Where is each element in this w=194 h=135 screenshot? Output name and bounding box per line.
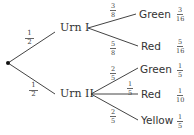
outcome-urn1-green: Green <box>139 8 171 20</box>
denominator: 5 <box>111 75 115 82</box>
outcome-urn2-red: Red <box>141 88 161 100</box>
branch-prob-urn1: 12 <box>25 30 34 46</box>
numerator: 2 <box>111 109 115 116</box>
denominator: 16 <box>176 48 184 55</box>
denominator: 5 <box>178 72 182 79</box>
numerator: 5 <box>111 41 115 48</box>
joint-prob-urn2-green: 15 <box>177 63 183 78</box>
numerator: 2 <box>111 66 115 73</box>
denominator: 2 <box>27 39 31 46</box>
branch-prob-urn1-green: 38 <box>110 3 116 18</box>
denominator: 5 <box>111 118 115 125</box>
branch-prob-urn2-green: 25 <box>110 66 116 81</box>
denominator: 16 <box>176 16 184 23</box>
branch-prob-urn1-red: 58 <box>110 41 116 56</box>
numerator: 1 <box>27 30 31 37</box>
numerator: 3 <box>111 3 115 10</box>
node-urn-1: Urn I <box>60 22 89 34</box>
outcome-urn1-red: Red <box>141 40 161 52</box>
denominator: 2 <box>31 91 35 98</box>
outcome-urn2-yellow: Yellow <box>141 114 173 126</box>
branch-prob-urn2-yellow: 25 <box>110 109 116 124</box>
numerator: 1 <box>178 114 182 121</box>
numerator: 1 <box>31 82 35 89</box>
denominator: 5 <box>178 123 182 130</box>
joint-prob-urn2-red: 110 <box>176 88 184 103</box>
denominator: 8 <box>111 12 115 19</box>
numerator: 3 <box>178 7 182 14</box>
joint-prob-urn1-red: 516 <box>176 39 184 54</box>
branch-prob-urn2-red: 15 <box>127 81 133 96</box>
root-node <box>6 61 10 65</box>
numerator: 1 <box>178 88 182 95</box>
branch-prob-urn2: 12 <box>29 82 38 98</box>
numerator: 1 <box>178 63 182 70</box>
numerator: 1 <box>128 81 132 88</box>
node-urn-2: Urn II <box>60 88 94 100</box>
joint-prob-urn2-yellow: 15 <box>177 114 183 129</box>
denominator: 8 <box>111 50 115 57</box>
denominator: 10 <box>176 97 184 104</box>
outcome-urn2-green: Green <box>140 63 172 75</box>
joint-prob-urn1-green: 316 <box>176 7 184 22</box>
denominator: 5 <box>128 90 132 97</box>
numerator: 5 <box>178 39 182 46</box>
